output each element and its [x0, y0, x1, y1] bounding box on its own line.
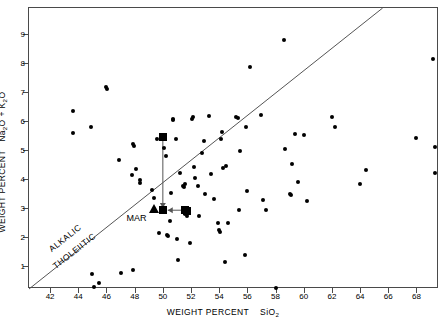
x-tick-label: 68: [412, 292, 421, 301]
y-tick-label: 4: [21, 174, 25, 183]
data-point-circle: [220, 130, 224, 134]
x-tick-label: 50: [158, 292, 167, 301]
data-point-circle: [105, 87, 109, 91]
data-point-circle: [162, 146, 166, 150]
y-tick-label: 8: [21, 59, 25, 68]
data-point-circle: [226, 221, 230, 225]
x-tick-label: 44: [74, 292, 83, 301]
data-point-circle: [296, 180, 300, 184]
x-tick-label: 48: [130, 292, 139, 301]
y-tick-label: 1: [21, 261, 25, 270]
y-axis-sub-k: 2: [1, 99, 8, 103]
data-point-circle: [219, 137, 223, 141]
data-point-triangle: [149, 204, 159, 213]
figure-root: WEIGHT PERCENT Na2O + K2O WEIGHT PERCENT…: [0, 0, 447, 324]
data-point-square: [183, 207, 191, 215]
connector-arrowhead: [168, 207, 173, 213]
data-point-circle: [218, 230, 222, 234]
data-point-circle: [264, 208, 268, 212]
x-tick-label: 46: [102, 292, 111, 301]
data-point-circle: [289, 193, 293, 197]
data-point-circle: [261, 198, 265, 202]
y-axis-title-na-o: O: [0, 119, 7, 126]
mar-annotation-label: MAR: [126, 213, 146, 223]
data-point-circle: [188, 241, 192, 245]
x-tick-label: 56: [243, 292, 252, 301]
plot-overlay: [29, 8, 439, 289]
data-point-circle: [433, 145, 437, 149]
data-point-circle: [191, 115, 195, 119]
data-point-circle: [150, 188, 154, 192]
x-tick-label: 54: [215, 292, 224, 301]
data-point-circle: [236, 116, 240, 120]
data-point-circle: [164, 154, 168, 158]
data-point-circle: [330, 115, 334, 119]
data-point-circle: [92, 285, 96, 289]
y-axis-sub-na: 2: [1, 126, 8, 130]
y-axis-title: WEIGHT PERCENT Na2O + K2O: [0, 92, 7, 233]
data-point-circle: [282, 38, 286, 42]
y-axis-title-k: K: [0, 102, 7, 108]
data-point-circle: [119, 271, 123, 275]
data-point-circle: [216, 221, 220, 225]
y-tick-label: 6: [21, 116, 25, 125]
x-tick-label: 60: [299, 292, 308, 301]
data-point-circle: [193, 176, 197, 180]
x-tick-label: 64: [356, 292, 365, 301]
data-point-circle: [364, 168, 368, 172]
y-tick-label: 9: [21, 30, 25, 39]
data-point-circle: [212, 197, 216, 201]
x-tick-label: 66: [384, 292, 393, 301]
x-axis-title-species: SiO: [260, 307, 275, 317]
x-axis-title-prefix: WEIGHT PERCENT: [167, 307, 249, 317]
x-axis-title-subscript: 2: [275, 311, 279, 318]
x-tick-label: 62: [327, 292, 336, 301]
data-point-circle: [274, 286, 278, 290]
data-point-circle: [305, 199, 309, 203]
data-point-circle: [168, 219, 172, 223]
data-point-circle: [134, 167, 138, 171]
y-axis-title-na: Na: [0, 130, 7, 142]
y-tick-label: 7: [21, 88, 25, 97]
y-axis-title-prefix: WEIGHT PERCENT: [0, 150, 7, 232]
data-point-circle: [202, 139, 206, 143]
y-tick-label: 2: [21, 232, 25, 241]
x-tick-label: 42: [46, 292, 55, 301]
data-point-circle: [302, 133, 306, 137]
x-tick-label: 52: [187, 292, 196, 301]
data-point-circle: [157, 231, 161, 235]
data-point-square: [159, 206, 167, 214]
y-axis-title-plus: +: [0, 111, 7, 116]
x-tick-label: 58: [271, 292, 280, 301]
data-point-circle: [192, 165, 196, 169]
data-point-square: [159, 133, 167, 141]
x-axis-title: WEIGHT PERCENT SiO2: [167, 307, 280, 317]
y-tick-label: 5: [21, 145, 25, 154]
data-point-circle: [209, 172, 213, 176]
data-point-circle: [174, 137, 178, 141]
data-point-circle: [243, 253, 247, 257]
plot-area: 123456789 4244464850525456586062646668 A…: [28, 7, 438, 288]
y-tick-label: 3: [21, 203, 25, 212]
data-point-circle: [71, 131, 75, 135]
